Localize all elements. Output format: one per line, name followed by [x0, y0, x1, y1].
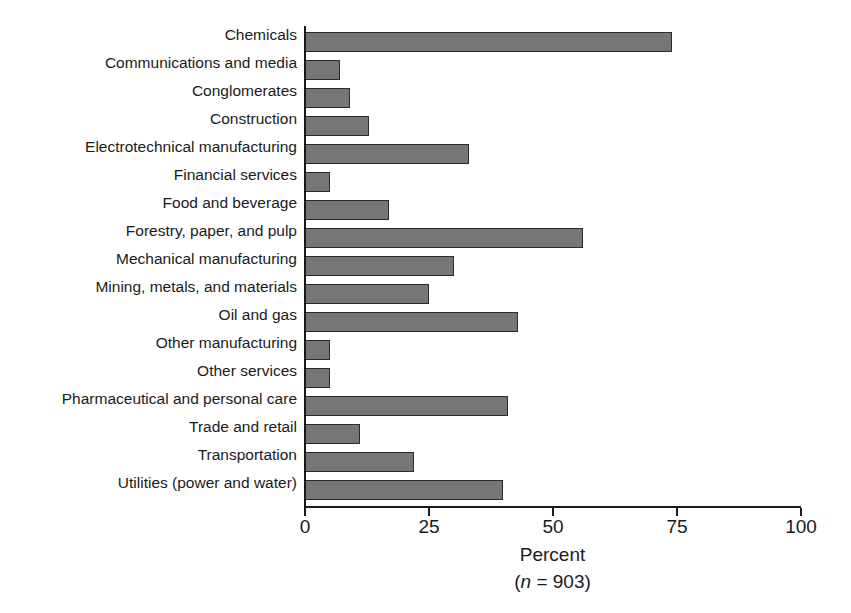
category-label: Transportation: [0, 445, 297, 465]
category-label: Electrotechnical manufacturing: [0, 137, 297, 157]
bar: [305, 424, 360, 444]
y-axis-line: [304, 26, 306, 508]
sample-size-text: (n = 903): [514, 571, 591, 592]
sample-size-value: 903: [553, 571, 585, 592]
chart-row: Trade and retail: [0, 416, 851, 444]
chart-row: Financial services: [0, 164, 851, 192]
category-label: Other manufacturing: [0, 333, 297, 353]
chart-row: Mechanical manufacturing: [0, 248, 851, 276]
bar: [305, 256, 454, 276]
chart-row: Transportation: [0, 444, 851, 472]
x-axis-tick-label: 25: [418, 516, 439, 538]
bar: [305, 60, 340, 80]
chart-row: Mining, metals, and materials: [0, 276, 851, 304]
category-label: Mechanical manufacturing: [0, 249, 297, 269]
x-axis-tick-label: 100: [785, 516, 817, 538]
x-axis-tick: [676, 508, 678, 516]
n-symbol: n: [521, 571, 532, 592]
bar: [305, 452, 414, 472]
bar: [305, 200, 389, 220]
x-axis-tick: [800, 508, 802, 516]
category-label: Communications and media: [0, 53, 297, 73]
chart-row: Utilities (power and water): [0, 472, 851, 500]
bar: [305, 312, 518, 332]
category-label: Pharmaceutical and personal care: [0, 389, 297, 409]
bar: [305, 32, 672, 52]
x-axis-tick: [428, 508, 430, 516]
x-axis-tick-label: 0: [300, 516, 311, 538]
x-axis-title: Percent: [304, 543, 801, 567]
bar: [305, 284, 429, 304]
category-label: Mining, metals, and materials: [0, 277, 297, 297]
x-axis-tick-label: 75: [666, 516, 687, 538]
category-label: Trade and retail: [0, 417, 297, 437]
chart-row: Pharmaceutical and personal care: [0, 388, 851, 416]
chart-row: Food and beverage: [0, 192, 851, 220]
x-axis-tick: [304, 508, 306, 516]
chart-row: Chemicals: [0, 24, 851, 52]
bar: [305, 172, 330, 192]
category-label: Oil and gas: [0, 305, 297, 325]
bar: [305, 228, 583, 248]
x-axis-sample-size-note: (n = 903): [304, 570, 801, 594]
bar: [305, 480, 503, 500]
chart-row: Electrotechnical manufacturing: [0, 136, 851, 164]
category-label: Other services: [0, 361, 297, 381]
category-label: Forestry, paper, and pulp: [0, 221, 297, 241]
bar: [305, 144, 469, 164]
chart-row: Oil and gas: [0, 304, 851, 332]
chart-row: Communications and media: [0, 52, 851, 80]
bar-chart: ChemicalsCommunications and mediaConglom…: [0, 0, 851, 613]
chart-row: Construction: [0, 108, 851, 136]
x-axis-tick: [552, 508, 554, 516]
bar: [305, 116, 369, 136]
category-label: Utilities (power and water): [0, 473, 297, 493]
category-label: Chemicals: [0, 25, 297, 45]
category-label: Construction: [0, 109, 297, 129]
bar: [305, 368, 330, 388]
category-label: Conglomerates: [0, 81, 297, 101]
category-label: Financial services: [0, 165, 297, 185]
x-axis-tick-label: 50: [542, 516, 563, 538]
bar: [305, 88, 350, 108]
chart-row: Other services: [0, 360, 851, 388]
chart-row: Forestry, paper, and pulp: [0, 220, 851, 248]
chart-row: Conglomerates: [0, 80, 851, 108]
bar: [305, 396, 508, 416]
chart-row: Other manufacturing: [0, 332, 851, 360]
category-label: Food and beverage: [0, 193, 297, 213]
bar: [305, 340, 330, 360]
